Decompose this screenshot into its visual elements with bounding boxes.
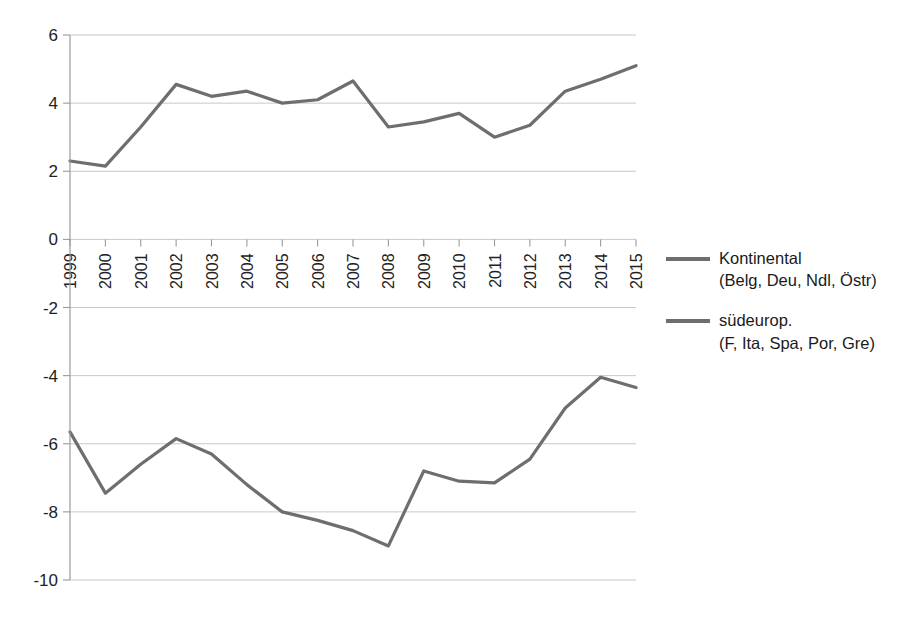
legend-sublabel-kontinental: (Belg, Deu, Ndl, Östr)	[719, 271, 914, 290]
y-axis-tick-label: 2	[49, 162, 58, 181]
x-axis-tick-label: 2011	[487, 253, 504, 288]
x-axis-tick-label: 2002	[168, 253, 185, 289]
x-axis-labels-group: 1999200020012002200320042005200620072008…	[62, 253, 645, 289]
x-axis-tick-label: 2014	[593, 253, 610, 289]
x-axis-tick-label: 2001	[133, 253, 150, 289]
legend-label-kontinental: Kontinental	[719, 250, 802, 267]
data-series-group	[70, 66, 636, 546]
legend-swatch-suedeurop	[666, 319, 710, 323]
y-axis-labels-group: 6420-2-4-6-8-10	[33, 26, 58, 590]
x-axis-tick-label: 2006	[310, 253, 327, 289]
y-axis-tick-label: -6	[43, 435, 58, 454]
x-axis-tick-label: 2003	[204, 253, 221, 289]
line-chart: 6420-2-4-6-8-10 199920002001200220032004…	[0, 0, 914, 620]
legend-sublabel-suedeurop: (F, Ita, Spa, Por, Gre)	[719, 334, 914, 353]
y-axis-tick-label: 0	[49, 230, 58, 249]
gridlines-group	[70, 35, 636, 580]
x-axis-tick-label: 2004	[239, 253, 256, 289]
cropped-caption	[6, 607, 566, 620]
chart-legend: Kontinental (Belg, Deu, Ndl, Östr) südeu…	[666, 250, 914, 375]
x-axis-tick-label: 2007	[345, 253, 362, 289]
y-axis-tick-label: -4	[43, 367, 58, 386]
x-axis-tick-label: 2015	[628, 253, 645, 289]
x-axis-tick-label: 2012	[522, 253, 539, 289]
legend-label-suedeurop: südeurop.	[719, 312, 792, 329]
y-axis-tick-label: -8	[43, 503, 58, 522]
legend-swatch-kontinental	[666, 257, 710, 261]
x-axis-tick-label: 2000	[97, 253, 114, 289]
x-axis-tick-label: 2013	[557, 253, 574, 289]
y-axis-tick-label: 4	[49, 94, 58, 113]
y-axis-ticks-group	[63, 35, 70, 580]
legend-item-kontinental: Kontinental (Belg, Deu, Ndl, Östr)	[666, 250, 914, 290]
series-line-suedeurop	[70, 377, 636, 546]
x-axis-tick-label: 2010	[451, 253, 468, 289]
y-axis-tick-label: 6	[49, 26, 58, 45]
y-axis-tick-label: -2	[43, 299, 58, 318]
x-axis-tick-label: 2005	[274, 253, 291, 289]
y-axis-tick-label: -10	[33, 571, 58, 590]
legend-item-suedeurop: südeurop. (F, Ita, Spa, Por, Gre)	[666, 312, 914, 352]
x-axis-tick-label: 2008	[380, 253, 397, 289]
series-line-kontinental	[70, 66, 636, 166]
x-axis-tick-label: 2009	[416, 253, 433, 289]
x-axis-ticks-group	[70, 239, 636, 246]
